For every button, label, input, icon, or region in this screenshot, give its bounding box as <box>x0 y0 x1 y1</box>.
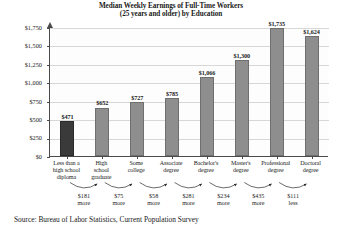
chart-title-line-2: (25 years and older) by Education <box>0 10 342 18</box>
delta-labels-layer: $181more$75more$58more$281more$234more$4… <box>49 193 328 213</box>
bar-column[interactable] <box>95 28 109 156</box>
x-axis-category-label: Professionaldegree <box>258 160 293 174</box>
bar-value-label: $1,066 <box>199 70 215 76</box>
x-axis-category-labels: Less than ahigh schooldiplomaHighschoolg… <box>49 160 328 182</box>
x-axis-category-label: Associatedegree <box>154 160 189 174</box>
category-label-line: Doctoral <box>293 160 328 167</box>
delta-amount: $281 <box>171 193 206 200</box>
y-axis-labels: $1,750$1,500$1,250$1,000$750$500$250$0 <box>0 28 46 157</box>
bars-layer: $471$652$727$785$1,066$1,300$1,735$1,624 <box>50 28 328 156</box>
category-label-line: Associate <box>154 160 189 167</box>
category-label-line: school <box>84 167 119 174</box>
y-axis-tick-label: $1,500 <box>25 43 42 49</box>
bar[interactable] <box>130 102 144 156</box>
delta-direction: less <box>276 200 311 207</box>
x-axis-tick <box>207 156 208 159</box>
curved-arrow-icon <box>175 183 202 188</box>
delta-label: $435more <box>241 193 276 207</box>
bar-column[interactable] <box>130 28 144 156</box>
x-axis-tick <box>67 156 68 159</box>
category-label-line: college <box>119 167 154 174</box>
bar-value-label: $785 <box>166 91 178 97</box>
y-axis-tick-label: $0 <box>36 154 42 160</box>
bar-column[interactable] <box>235 28 249 156</box>
y-axis-tick-label: $500 <box>29 117 42 123</box>
curved-arrow-icon <box>244 183 271 188</box>
category-label-line: degree <box>154 167 189 174</box>
delta-direction: more <box>136 200 171 207</box>
y-axis-tick-label: $1,750 <box>25 25 42 31</box>
y-axis-tick-label: $250 <box>29 135 42 141</box>
delta-label: $234more <box>206 193 241 207</box>
y-axis-tick <box>47 157 50 158</box>
category-label-line: Bachelor's <box>189 160 224 167</box>
bar[interactable] <box>60 121 74 156</box>
y-axis-tick-label: $1,000 <box>25 80 42 86</box>
bar-value-label: $652 <box>96 100 108 106</box>
y-axis-tick-label: $750 <box>29 99 42 105</box>
bar-value-label: $1,624 <box>303 29 319 35</box>
delta-amount: $111 <box>276 193 311 200</box>
delta-label: $58more <box>136 193 171 207</box>
x-axis-category-label: Somecollege <box>119 160 154 174</box>
category-label-line: degree <box>258 167 293 174</box>
bar[interactable] <box>305 36 319 156</box>
bar-column[interactable] <box>60 28 74 156</box>
x-axis-category-label: Less than ahigh schooldiploma <box>49 160 84 181</box>
x-axis-tick <box>102 156 103 159</box>
bar-column[interactable] <box>200 28 214 156</box>
category-label-line: Master's <box>223 160 258 167</box>
delta-label: $181more <box>66 193 101 207</box>
delta-label: $111less <box>276 193 311 207</box>
delta-amount: $234 <box>206 193 241 200</box>
x-axis-tick <box>137 156 138 159</box>
bar-value-label: $1,735 <box>268 21 284 27</box>
x-axis-tick <box>312 156 313 159</box>
bar-value-label: $727 <box>131 95 143 101</box>
delta-direction: more <box>101 200 136 207</box>
curved-arrow-icon <box>105 183 132 188</box>
category-label-line: High <box>84 160 119 167</box>
curved-arrow-icon <box>70 183 97 188</box>
x-axis-category-label: Bachelor'sdegree <box>189 160 224 174</box>
delta-direction: more <box>171 200 206 207</box>
delta-amount: $181 <box>66 193 101 200</box>
delta-amount: $435 <box>241 193 276 200</box>
category-label-line: Professional <box>258 160 293 167</box>
x-axis-category-label: Master'sdegree <box>223 160 258 174</box>
plot-area-wrapper: $471$652$727$785$1,066$1,300$1,735$1,624 <box>49 28 328 157</box>
chart-title: Median Weekly Earnings of Full-Time Work… <box>0 2 342 19</box>
bar[interactable] <box>200 77 214 156</box>
source-note: Source: Bureau of Labor Statistics, Curr… <box>14 215 199 224</box>
delta-direction: more <box>66 200 101 207</box>
chart-title-line-1: Median Weekly Earnings of Full-Time Work… <box>0 2 342 10</box>
curved-arrow-icon <box>140 183 167 188</box>
bar[interactable] <box>95 108 109 156</box>
plot-area: $471$652$727$785$1,066$1,300$1,735$1,624 <box>49 28 328 157</box>
delta-direction: more <box>206 200 241 207</box>
x-axis-tick <box>277 156 278 159</box>
earnings-bar-chart: Median Weekly Earnings of Full-Time Work… <box>0 0 342 229</box>
curved-arrow-icon <box>279 183 306 188</box>
bar[interactable] <box>165 98 179 156</box>
category-label-line: Some <box>119 160 154 167</box>
category-label-line: Less than a <box>49 160 84 167</box>
delta-amount: $75 <box>101 193 136 200</box>
bar-column[interactable] <box>270 28 284 156</box>
bar-value-label: $471 <box>61 114 73 120</box>
bar[interactable] <box>235 60 249 156</box>
delta-amount: $58 <box>136 193 171 200</box>
bar[interactable] <box>270 28 284 156</box>
y-axis-tick-label: $1,250 <box>25 62 42 68</box>
delta-label: $281more <box>171 193 206 207</box>
bar-value-label: $1,300 <box>234 53 250 59</box>
bar-column[interactable] <box>305 28 319 156</box>
category-label-line: degree <box>189 167 224 174</box>
category-label-line: high school <box>49 167 84 174</box>
category-label-line: degree <box>293 167 328 174</box>
x-axis-tick <box>242 156 243 159</box>
x-axis-category-label: Highschoolgraduate <box>84 160 119 181</box>
category-label-line: degree <box>223 167 258 174</box>
delta-direction: more <box>241 200 276 207</box>
curved-arrow-icon <box>209 183 236 188</box>
